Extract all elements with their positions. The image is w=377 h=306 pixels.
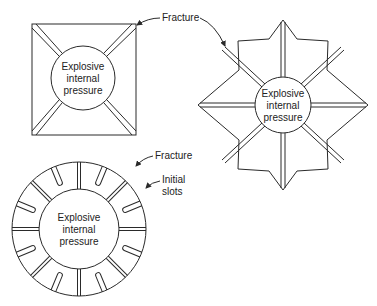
initial-slots-label-line2: slots: [162, 186, 183, 197]
square-fragment-diagram: Explosive internal pressure: [32, 24, 136, 135]
fracture-arrow-star: [200, 18, 225, 46]
initial-slots-arrow: [146, 181, 160, 188]
square-label-line3: pressure: [64, 85, 103, 96]
fracture-label-top: Fracture: [162, 12, 200, 23]
ring-fragment-diagram: Explosive internal pressure: [12, 162, 146, 296]
star-label-line2: internal: [267, 100, 300, 111]
initial-slots-label-line1: Initial: [162, 174, 185, 185]
square-label-line2: internal: [67, 73, 100, 84]
ring-label-line1: Explosive: [58, 212, 101, 223]
square-label-line1: Explosive: [62, 61, 105, 72]
fracture-arrow-ring: [136, 156, 153, 166]
star-label-line1: Explosive: [262, 88, 305, 99]
ring-label-line3: pressure: [60, 236, 99, 247]
fracture-arrow-square: [137, 18, 160, 25]
star-fragment-diagram: Explosive internal pressure: [198, 20, 368, 190]
fracture-diagram: Explosive internal pressure Fracture Exp…: [0, 0, 377, 306]
ring-label-line2: internal: [63, 224, 96, 235]
fracture-label-ring: Fracture: [155, 150, 193, 161]
star-label-line3: pressure: [264, 112, 303, 123]
